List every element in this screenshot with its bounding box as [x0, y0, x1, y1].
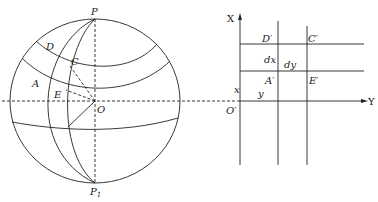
label-A-prime: A′ [264, 75, 275, 86]
label-Y-axis: Y [367, 96, 375, 107]
label-y: y [257, 88, 264, 99]
label-dy: dy [284, 59, 296, 70]
radius-lower [68, 101, 95, 127]
meridian-inner [68, 19, 95, 183]
x-axis-arrow-icon [238, 13, 242, 20]
radius-OC [70, 66, 95, 101]
parallel-2 [23, 59, 170, 88]
diagram-svg: P P1 D C A E O X Y D′ C′ A′ E′ O′ dx dy … [0, 0, 378, 202]
diagram-canvas: P P1 D C A E O X Y D′ C′ A′ E′ O′ dx dy … [0, 0, 378, 202]
label-P: P [90, 6, 98, 17]
label-P1: P1 [89, 186, 101, 199]
label-C: C [71, 56, 79, 67]
label-O-prime: O′ [226, 105, 237, 116]
label-O: O [97, 104, 105, 115]
parallel-1 [36, 41, 157, 66]
label-E: E [53, 89, 62, 100]
label-dx: dx [264, 54, 276, 65]
label-X-axis: X [227, 13, 235, 24]
y-axis-arrow-icon [361, 99, 368, 103]
label-D-prime: D′ [261, 33, 273, 44]
label-E-prime: E′ [308, 75, 319, 86]
label-A: A [31, 78, 39, 89]
label-C-prime: C′ [308, 33, 319, 44]
label-D: D [45, 41, 54, 52]
label-x: x [234, 84, 240, 95]
